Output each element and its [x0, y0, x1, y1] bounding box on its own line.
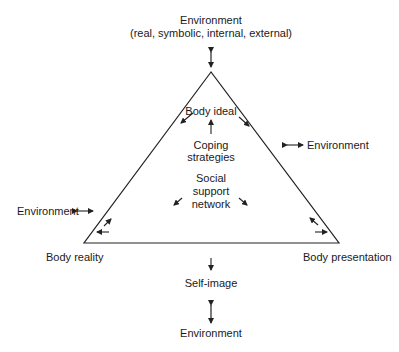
- body-presentation-diagonal-arrow-icon: [310, 218, 318, 225]
- self-image-label: Self-image: [161, 277, 261, 290]
- left-environment-label: Environment: [17, 205, 79, 218]
- body-reality-label: Body reality: [46, 251, 103, 264]
- body-reality-diagonal-arrow-icon: [104, 219, 111, 226]
- right-environment-label: Environment: [307, 139, 369, 152]
- bottom-environment-label: Environment: [161, 327, 261, 340]
- social-support-line2: support: [161, 185, 261, 198]
- body-presentation-label: Body presentation: [303, 251, 392, 264]
- coping-strategies-line2: strategies: [161, 151, 261, 164]
- top-environment-title: Environment: [111, 14, 311, 27]
- social-support-line1: Social: [161, 172, 261, 185]
- top-environment-subtitle: (real, symbolic, internal, external): [91, 27, 331, 40]
- body-ideal-label: Body ideal: [161, 105, 261, 118]
- social-support-line3: network: [161, 198, 261, 211]
